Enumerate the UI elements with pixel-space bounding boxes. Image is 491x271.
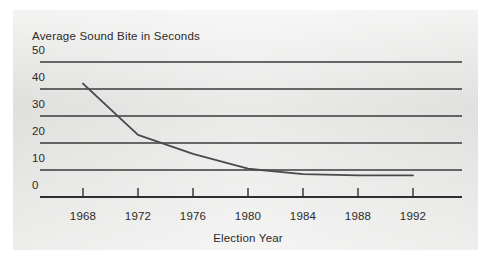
data-line-average-sound-bite xyxy=(83,84,413,176)
x-axis-ticks xyxy=(83,188,413,197)
figure: Average Sound Bite in Seconds 50 40 30 2… xyxy=(0,0,491,271)
chart-panel: Average Sound Bite in Seconds 50 40 30 2… xyxy=(13,10,478,250)
grid-lines xyxy=(40,62,462,170)
plot-area xyxy=(13,10,478,250)
